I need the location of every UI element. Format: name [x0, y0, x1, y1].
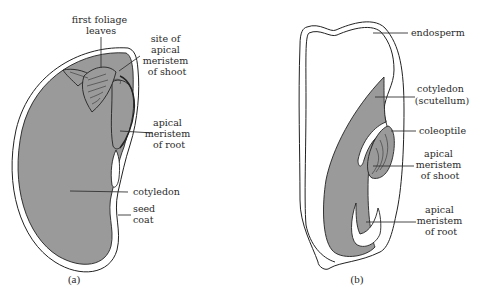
hypocotyl-radicle [111, 80, 133, 149]
label-apical-meristem-shoot: apical meristem of shoot [416, 148, 465, 181]
seed-diagram: first foliage leaves site of apical meri… [0, 0, 487, 292]
label-cotyledon: cotyledon [133, 186, 180, 197]
panel-a-bean-seed: first foliage leaves site of apical meri… [12, 14, 193, 286]
label-site-apical-meristem-shoot: site of apical meristem of shoot [143, 33, 192, 77]
panel-b-grain-seed: endosperm cotyledon (scutellum) coleopti… [299, 22, 469, 286]
label-cotyledon-scutellum: cotyledon (scutellum) [415, 83, 469, 106]
label-endosperm: endosperm [411, 27, 465, 38]
label-first-foliage-leaves: first foliage leaves [72, 14, 130, 36]
label-apical-meristem-root: apical meristem of root [417, 204, 466, 237]
label-apical-meristem-root: apical meristem of root [145, 117, 194, 150]
label-coleoptile: coleoptile [419, 125, 466, 136]
label-seed-coat: seed coat [133, 203, 158, 225]
caption-a: (a) [68, 273, 81, 286]
caption-b: (b) [351, 273, 364, 286]
